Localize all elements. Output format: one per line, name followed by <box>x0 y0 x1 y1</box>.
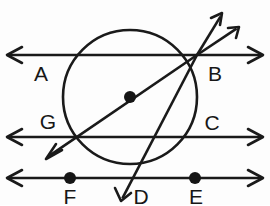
point-f-dot <box>64 172 76 184</box>
label-d: D <box>133 186 148 206</box>
label-e: E <box>189 186 203 206</box>
ray-b-diameter-segment <box>48 55 197 156</box>
point-center-dot <box>124 91 136 103</box>
label-g: G <box>40 111 56 132</box>
ray-b-upper-steep-segment <box>197 17 220 55</box>
ray-b-upper-shallow <box>197 27 239 55</box>
geometry-figure: A B G C F D E <box>0 0 270 205</box>
point-e-dot <box>189 172 201 184</box>
label-c: C <box>204 112 219 133</box>
ray-b-upper-steep <box>197 13 222 55</box>
label-f: F <box>64 186 77 206</box>
figure-canvas <box>0 0 270 205</box>
label-b: B <box>208 63 222 84</box>
ray-b-upper-shallow-segment <box>197 29 237 55</box>
label-a: A <box>34 63 48 84</box>
